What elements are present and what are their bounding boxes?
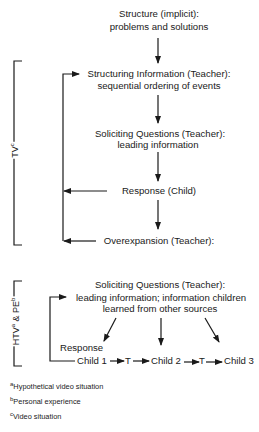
structuring-title: Structuring Information (Teacher): bbox=[88, 68, 231, 79]
sequence-child-3: Child 3 bbox=[224, 355, 254, 366]
bottom-soliciting-line2: leading information; information childre… bbox=[76, 292, 246, 303]
structure-title: Structure (implicit): bbox=[119, 8, 199, 19]
diagram-lines bbox=[0, 0, 259, 432]
footnote-b: bPersonal experience bbox=[10, 396, 81, 406]
bottom-soliciting-line3: learned from other sources bbox=[103, 303, 218, 314]
soliciting-title: Soliciting Questions (Teacher): bbox=[95, 128, 225, 139]
soliciting-subtitle: leading information bbox=[117, 139, 198, 150]
htv-pe-bracket-label: HTVa & PEb bbox=[10, 297, 21, 347]
sequence-child-2: Child 2 bbox=[151, 355, 181, 366]
arrow-to-child1 bbox=[104, 318, 116, 341]
bottom-soliciting-title: Soliciting Questions (Teacher): bbox=[95, 279, 225, 290]
footnote-c: cVideo situation bbox=[10, 411, 61, 421]
structuring-subtitle: sequential ordering of events bbox=[97, 80, 220, 91]
footnote-a: aHypothetical video situation bbox=[10, 381, 103, 391]
sequence-teacher-2: T bbox=[199, 355, 205, 366]
arrow-to-child3 bbox=[205, 318, 219, 342]
overexpansion: Overexpansion (Teacher): bbox=[104, 235, 214, 246]
sequence-teacher-1: T bbox=[125, 355, 131, 366]
tv-bracket-label: TVc bbox=[9, 142, 20, 159]
structure-subtitle: problems and solutions bbox=[110, 21, 209, 32]
response-child: Response (Child) bbox=[122, 185, 196, 196]
response-label: Response bbox=[60, 342, 103, 353]
loop-line-top bbox=[63, 74, 79, 241]
sequence-child-1: Child 1 bbox=[77, 355, 107, 366]
